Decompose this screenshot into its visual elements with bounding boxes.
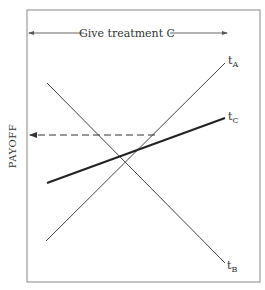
plot-frame	[27, 10, 260, 282]
label-tB: tB	[227, 259, 237, 274]
range-label: Give treatment C	[79, 27, 175, 40]
payoff-diagram: Give treatment C PAYOFF tA tB tC	[0, 0, 265, 290]
y-axis-label: PAYOFF	[7, 124, 18, 168]
label-tC: tC	[228, 110, 239, 125]
line-tA	[46, 63, 225, 241]
treatment-range-arrow: Give treatment C	[29, 27, 227, 40]
label-tA: tA	[228, 54, 238, 69]
